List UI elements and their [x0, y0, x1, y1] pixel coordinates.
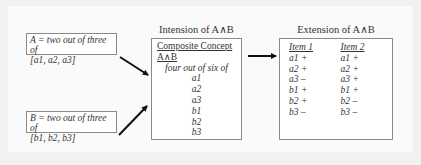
- item-1-value: b3 –: [289, 107, 341, 118]
- arrow-a-to-intension: [120, 57, 148, 75]
- item-1-value: a1 +: [289, 53, 341, 64]
- composite-concept-name: A∧B: [152, 52, 241, 63]
- concept-a-box: A = two out of three of [a1, a2, a3]: [26, 33, 117, 55]
- item-1-value: a3 –: [289, 74, 341, 85]
- item-1-value: b1 +: [289, 85, 341, 96]
- item-1-value: a2 +: [289, 64, 341, 75]
- item-2-value: b1 +: [341, 85, 393, 96]
- intension-box: Composite Concept A∧B four out of six of…: [151, 38, 242, 140]
- item-2-value: b3 –: [341, 107, 393, 118]
- item-2-value: b2 –: [341, 96, 393, 107]
- feature-item: a2: [152, 84, 241, 95]
- feature-item: a1: [152, 73, 241, 84]
- concept-b-definition: B = two out of three of: [30, 113, 113, 133]
- item-2-label: Item 2: [341, 42, 393, 53]
- item-2-value: a2 +: [341, 64, 393, 75]
- feature-item: b1: [152, 106, 241, 117]
- feature-item: b2: [152, 117, 241, 128]
- feature-item: a3: [152, 95, 241, 106]
- item-1-value: b2 +: [289, 96, 341, 107]
- extension-box: Item 1 a1 + a2 + a3 – b1 + b2 + b3 – Ite…: [279, 38, 393, 140]
- concept-a-definition: A = two out of three of: [30, 35, 113, 55]
- intension-title: Intension of A∧B: [151, 23, 242, 35]
- item-2-value: a1 +: [341, 53, 393, 64]
- concept-a-features: [a1, a2, a3]: [30, 55, 113, 65]
- concept-b-features: [b1, b2, b3]: [30, 133, 113, 143]
- concept-b-box: B = two out of three of [b1, b2, b3]: [26, 111, 117, 133]
- arrow-b-to-intension: [119, 106, 147, 135]
- item-2-value: a3 +: [341, 74, 393, 85]
- item-1-label: Item 1: [289, 42, 341, 53]
- composite-rule: four out of six of: [152, 63, 241, 74]
- item-2-column: Item 2 a1 + a2 + a3 + b1 + b2 – b3 –: [341, 42, 393, 118]
- composite-concept-heading: Composite Concept: [152, 41, 241, 52]
- feature-item: b3: [152, 127, 241, 138]
- extension-title: Extension of A∧B: [279, 23, 393, 35]
- item-1-column: Item 1 a1 + a2 + a3 – b1 + b2 + b3 –: [289, 42, 341, 118]
